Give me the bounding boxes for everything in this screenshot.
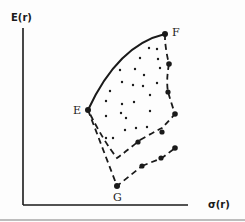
feasible-set-boundary xyxy=(88,34,175,158)
point-f-marker xyxy=(162,31,168,37)
point-e-label: E xyxy=(73,104,81,117)
efficient-frontier-curve xyxy=(88,34,165,110)
interior-portfolios xyxy=(105,47,161,139)
point-g-label: G xyxy=(113,191,122,204)
boundary-point xyxy=(159,129,164,134)
boundary-to-g xyxy=(88,110,142,186)
boundary-point xyxy=(172,145,178,151)
diagram-canvas xyxy=(0,0,245,222)
boundary-point xyxy=(135,139,140,144)
bottom-divider xyxy=(0,219,245,221)
x-axis-label: σ(r) xyxy=(208,199,230,210)
boundary-point xyxy=(165,89,170,94)
point-f-label: F xyxy=(172,26,180,39)
boundary-point xyxy=(166,61,172,67)
boundary-point xyxy=(158,155,163,160)
boundary-point xyxy=(172,111,178,117)
y-axis-label: E(r) xyxy=(11,12,32,23)
efficient-frontier-diagram: E(r) σ(r) E F G xyxy=(0,0,245,222)
boundary-g-to-right xyxy=(142,148,175,166)
boundary-point xyxy=(139,163,144,168)
